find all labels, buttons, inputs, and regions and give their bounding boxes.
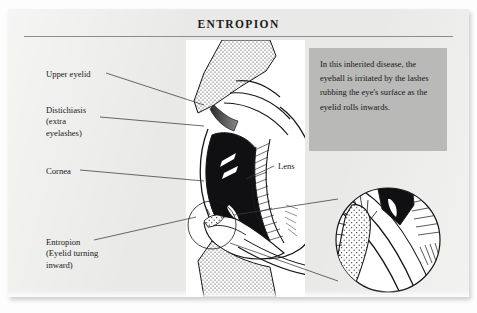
upper-eyelid-tissue: [194, 40, 276, 113]
label-lens: Lens: [278, 161, 295, 172]
label-entropion: Entropion (Eyelid turning inward): [46, 237, 98, 271]
reference-card: ENTROPION In this inherited disease, the…: [8, 9, 469, 297]
label-distichiasis: Distichiasis (extra eyelashes): [46, 105, 86, 139]
card-bottom-edge: [8, 290, 469, 297]
upper-lid-margin: [230, 93, 290, 119]
ciliary-shading: [285, 205, 298, 236]
magnified-inset: [330, 179, 444, 297]
iris-arc: [266, 139, 284, 243]
leader-entropion: [94, 217, 196, 240]
label-cornea: Cornea: [46, 166, 71, 177]
scanned-page: ENTROPION In this inherited disease, the…: [0, 0, 477, 313]
upper-eyelashes: [210, 105, 238, 131]
label-upper-eyelid: Upper eyelid: [46, 69, 91, 80]
leader-distichiasis: [100, 117, 204, 126]
leader-cornea: [80, 170, 204, 181]
leader-upper-eyelid: [106, 73, 204, 105]
main-eye-drawing: [194, 40, 319, 297]
